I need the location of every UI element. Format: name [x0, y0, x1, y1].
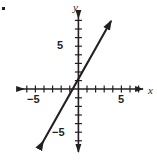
x-axis: [17, 86, 143, 93]
plotted-line: [40, 21, 112, 148]
x-axis-label: x: [148, 85, 153, 96]
graph-canvas: [0, 0, 157, 163]
coordinate-plane-figure: −5 5 5 −5 y x: [0, 0, 157, 163]
y-tick-label-positive-5: 5: [57, 40, 63, 51]
x-tick-label-positive-5: 5: [118, 94, 124, 105]
y-tick-label-negative-5: −5: [52, 127, 65, 138]
y-axis-label: y: [73, 2, 78, 13]
x-tick-label-negative-5: −5: [27, 94, 40, 105]
